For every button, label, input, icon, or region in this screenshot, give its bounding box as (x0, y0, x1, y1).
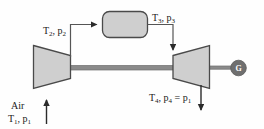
state1-pressure-subscript: 1 (28, 118, 32, 126)
state4-separator: , (159, 92, 164, 103)
state3-separator: , (162, 12, 167, 23)
generator-shaft (208, 66, 232, 69)
state3-pressure-subscript: 3 (172, 17, 176, 25)
duct-compressor-to-heat-exchanger (71, 25, 97, 58)
duct-heat-exchanger-to-turbine (148, 25, 174, 51)
state4-temperature: T4 (149, 92, 159, 103)
turbine (173, 46, 210, 89)
state4-pressure: p4 (164, 92, 173, 103)
shaft (69, 66, 174, 71)
state4-equals: = (172, 92, 183, 103)
state3-label: T3, p3 (152, 12, 175, 27)
state3-pressure: p3 (167, 12, 176, 23)
state2-pressure-subscript: 2 (63, 30, 67, 38)
generator-label: G (235, 64, 241, 73)
state4-pressure-equal-subscript: 1 (188, 97, 192, 105)
state2-temperature: T2 (43, 25, 53, 36)
diagram-canvas: G (0, 0, 264, 129)
air-label: Air (11, 100, 24, 111)
state3-temperature: T3 (152, 12, 162, 23)
state1-label: T1, p1 (8, 113, 31, 128)
state2-separator: , (53, 25, 58, 36)
state1-separator: , (18, 113, 23, 124)
state1-pressure: p1 (23, 113, 32, 124)
compressor (34, 46, 71, 89)
state1-temperature: T1 (8, 113, 18, 124)
state4-pressure-equal: p1 (183, 92, 192, 103)
gas-turbine-diagram: G T2, p2 T3, p3 T4, p4 = p1 Air T1, p1 (0, 0, 264, 129)
state2-label: T2, p2 (43, 25, 66, 40)
heat-exchanger (103, 12, 148, 38)
state2-pressure: p2 (58, 25, 67, 36)
state4-label: T4, p4 = p1 (149, 92, 191, 107)
